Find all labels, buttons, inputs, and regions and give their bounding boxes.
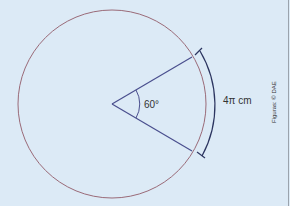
figure-credit: Figuras: © DAE [271, 81, 277, 123]
arc-length-bracket [200, 51, 215, 156]
ray-upper [112, 57, 192, 104]
circle-sector-diagram: 60° 4π cm Figuras: © DAE [0, 0, 290, 206]
arc-length-label: 4π cm [223, 95, 252, 106]
ray-lower [112, 104, 192, 151]
angle-label: 60° [144, 99, 159, 110]
angle-arc [136, 90, 140, 118]
